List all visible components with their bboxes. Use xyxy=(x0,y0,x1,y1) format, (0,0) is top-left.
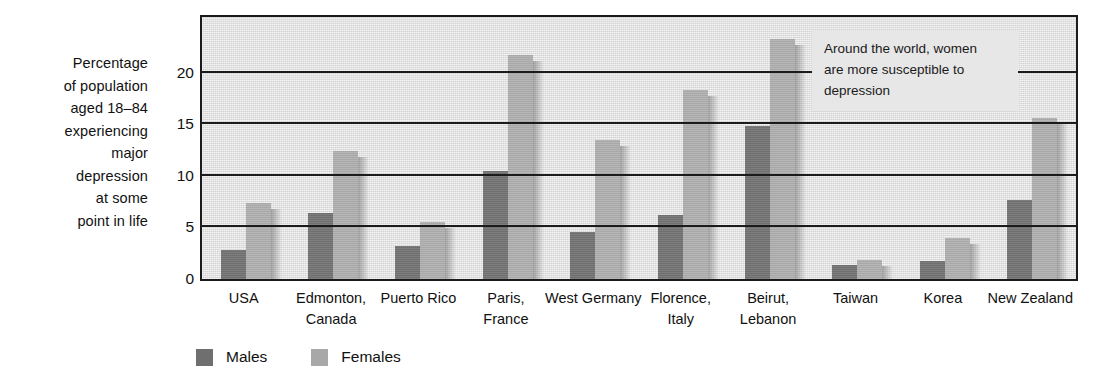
legend-label: Males xyxy=(226,348,267,366)
gridline xyxy=(202,122,1076,124)
bar-group xyxy=(289,17,376,279)
bar-female xyxy=(1032,118,1057,279)
bar-male xyxy=(1007,200,1032,279)
legend-item-males: Males xyxy=(196,348,267,366)
y-axis-label-line: point in life xyxy=(8,210,148,233)
bar-male xyxy=(308,213,333,279)
female-swatch-icon xyxy=(311,349,328,366)
y-axis-label-line: depression xyxy=(8,165,148,188)
gridline xyxy=(202,225,1076,227)
x-axis-tick-label: New Zealand xyxy=(975,288,1086,309)
bar-male xyxy=(395,246,420,279)
annotation-line: Around the world, women xyxy=(824,38,1008,59)
bar-male xyxy=(221,250,246,279)
x-axis-tick-label-line: France xyxy=(450,309,561,330)
x-axis-tick-label-line: Lebanon xyxy=(712,309,823,330)
legend: Males Females xyxy=(196,345,401,369)
y-axis-label-line: of population xyxy=(8,75,148,98)
y-axis-tick-label: 20 xyxy=(160,65,194,81)
bar-female xyxy=(246,203,271,279)
bar-group xyxy=(202,17,289,279)
y-axis-label: Percentage of population aged 18–84 expe… xyxy=(8,52,148,232)
bar-female xyxy=(857,260,882,279)
y-axis-label-line: experiencing xyxy=(8,120,148,143)
y-axis-label-line: aged 18–84 xyxy=(8,97,148,120)
bar-group xyxy=(639,17,726,279)
x-axis-tick-label-line: Canada xyxy=(275,309,386,330)
bar-group xyxy=(726,17,813,279)
annotation-line: depression xyxy=(824,80,1008,101)
bar-male xyxy=(920,261,945,279)
bar-female xyxy=(945,238,970,279)
bar-group xyxy=(377,17,464,279)
y-axis-label-line: Percentage xyxy=(8,52,148,75)
bar-group xyxy=(464,17,551,279)
bar-female xyxy=(508,55,533,279)
depression-by-country-bar-chart: Percentage of population aged 18–84 expe… xyxy=(0,0,1099,385)
gridline xyxy=(202,174,1076,176)
legend-item-females: Females xyxy=(311,348,400,366)
x-axis-tick-labels: USAEdmonton,CanadaPuerto RicoParis,Franc… xyxy=(200,288,1078,334)
y-axis-label-line: at some xyxy=(8,187,148,210)
legend-label: Females xyxy=(341,348,400,366)
x-axis-tick-label-line: New Zealand xyxy=(975,288,1086,309)
bar-female xyxy=(595,140,620,279)
bar-male xyxy=(570,232,595,279)
y-axis-label-line: major xyxy=(8,142,148,165)
y-axis-ticks: 05101520 xyxy=(152,15,194,281)
annotation-callout: Around the world, women are more suscept… xyxy=(812,30,1018,111)
y-axis-tick-label: 15 xyxy=(160,117,194,133)
annotation-line: are more susceptible to xyxy=(824,59,1008,80)
bar-female xyxy=(683,90,708,279)
bar-female xyxy=(770,39,795,279)
bar-group xyxy=(552,17,639,279)
bar-male xyxy=(745,126,770,279)
male-swatch-icon xyxy=(196,349,213,366)
y-axis-tick-label: 0 xyxy=(160,271,194,287)
bar-male xyxy=(832,265,857,279)
y-axis-tick-label: 5 xyxy=(160,220,194,236)
bar-female xyxy=(333,151,358,279)
bar-female xyxy=(420,222,445,279)
y-axis-tick-label: 10 xyxy=(160,168,194,184)
